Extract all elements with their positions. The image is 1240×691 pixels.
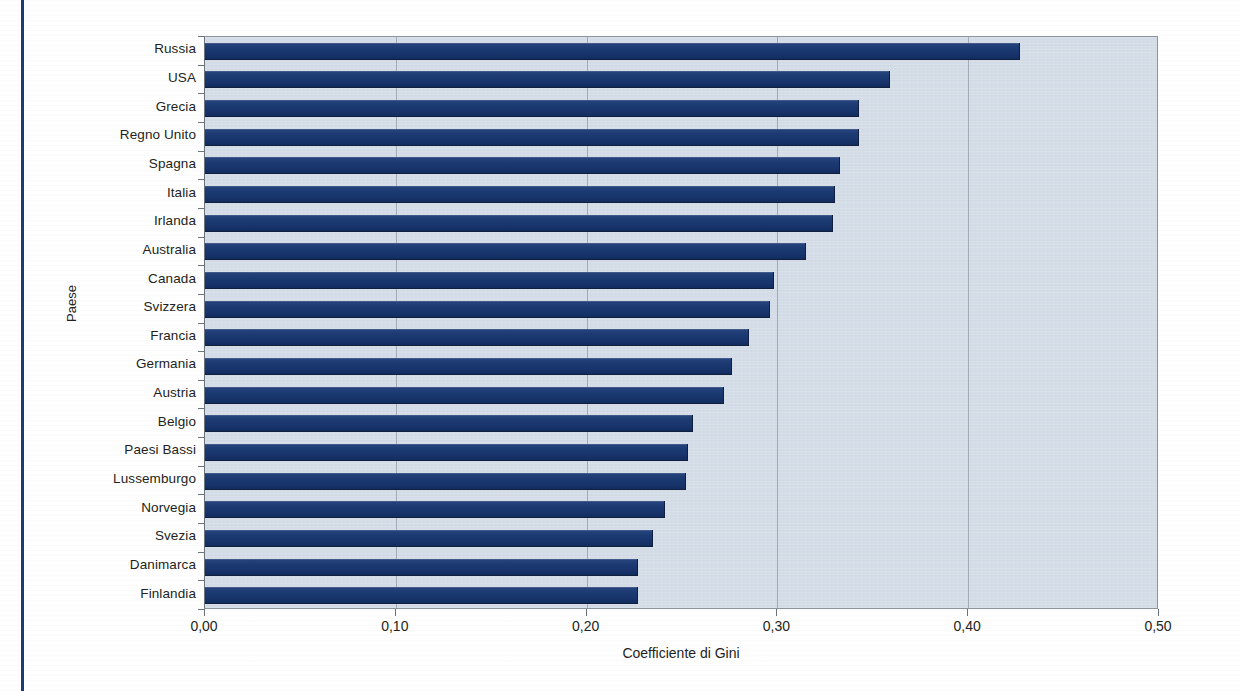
category-tick xyxy=(198,65,204,66)
gridline xyxy=(587,37,588,608)
bar-row xyxy=(205,358,1157,375)
category-tick xyxy=(198,265,204,266)
gridline xyxy=(777,37,778,608)
category-label: Irlanda xyxy=(0,213,196,228)
plot-background-texture xyxy=(205,37,1157,608)
value-tick xyxy=(395,609,396,616)
category-label: Russia xyxy=(0,41,196,56)
category-tick xyxy=(198,351,204,352)
category-tick xyxy=(198,552,204,553)
category-label: USA xyxy=(0,70,196,85)
category-label: Germania xyxy=(0,356,196,371)
value-tick-label: 0,30 xyxy=(763,618,790,634)
page-canvas: RussiaUSAGreciaRegno UnitoSpagnaItaliaIr… xyxy=(0,0,1240,691)
category-label: Belgio xyxy=(0,414,196,429)
bar-row xyxy=(205,157,1157,174)
bar xyxy=(205,501,665,518)
gini-bar-chart: RussiaUSAGreciaRegno UnitoSpagnaItaliaIr… xyxy=(0,0,1240,691)
category-tick xyxy=(198,122,204,123)
bar xyxy=(205,43,1020,60)
bar xyxy=(205,415,693,432)
bar xyxy=(205,301,770,318)
bar-row xyxy=(205,501,1157,518)
category-label: Italia xyxy=(0,185,196,200)
bar-row xyxy=(205,100,1157,117)
value-tick-label: 0,00 xyxy=(190,618,217,634)
bar xyxy=(205,530,653,547)
value-tick xyxy=(586,609,587,616)
y-axis-title: Paese xyxy=(64,285,79,322)
category-label: Svizzera xyxy=(0,299,196,314)
category-label: Francia xyxy=(0,328,196,343)
bar-row xyxy=(205,415,1157,432)
bar xyxy=(205,329,749,346)
category-tick xyxy=(198,466,204,467)
bar-row xyxy=(205,444,1157,461)
value-tick-label: 0,40 xyxy=(954,618,981,634)
bar xyxy=(205,157,840,174)
bar xyxy=(205,444,688,461)
category-tick xyxy=(198,380,204,381)
bar xyxy=(205,129,859,146)
value-tick-label: 0,50 xyxy=(1144,618,1171,634)
category-tick xyxy=(198,36,204,37)
category-label: Norvegia xyxy=(0,500,196,515)
bar xyxy=(205,71,890,88)
category-label: Svezia xyxy=(0,528,196,543)
bar-row xyxy=(205,559,1157,576)
value-tick xyxy=(1158,609,1159,616)
bar xyxy=(205,100,859,117)
category-label: Finlandia xyxy=(0,586,196,601)
value-tick-label: 0,20 xyxy=(572,618,599,634)
x-axis-title: Coefficiente di Gini xyxy=(622,645,739,661)
value-tick xyxy=(967,609,968,616)
category-tick xyxy=(198,580,204,581)
bar-row xyxy=(205,43,1157,60)
bar-row xyxy=(205,473,1157,490)
category-label: Grecia xyxy=(0,99,196,114)
bar xyxy=(205,272,774,289)
bar-row xyxy=(205,71,1157,88)
bar xyxy=(205,559,638,576)
category-label: Spagna xyxy=(0,156,196,171)
category-label: Lussemburgo xyxy=(0,471,196,486)
bar-row xyxy=(205,186,1157,203)
gridline xyxy=(968,37,969,608)
category-tick xyxy=(198,408,204,409)
category-label: Australia xyxy=(0,242,196,257)
category-tick xyxy=(198,523,204,524)
category-tick xyxy=(198,437,204,438)
bar-row xyxy=(205,301,1157,318)
bar xyxy=(205,587,638,604)
bar xyxy=(205,215,833,232)
value-tick-label: 0,10 xyxy=(381,618,408,634)
category-tick xyxy=(198,179,204,180)
category-label: Regno Unito xyxy=(0,127,196,142)
bar-row xyxy=(205,243,1157,260)
bar xyxy=(205,243,806,260)
category-tick xyxy=(198,494,204,495)
bar xyxy=(205,473,686,490)
bar-row xyxy=(205,215,1157,232)
value-tick xyxy=(204,609,205,616)
bar-row xyxy=(205,129,1157,146)
value-tick xyxy=(776,609,777,616)
plot-area xyxy=(204,36,1158,609)
bar-row xyxy=(205,329,1157,346)
bar-row xyxy=(205,272,1157,289)
gridline xyxy=(396,37,397,608)
category-tick xyxy=(198,93,204,94)
category-tick xyxy=(198,208,204,209)
bar-row xyxy=(205,387,1157,404)
bar xyxy=(205,186,835,203)
bar xyxy=(205,358,732,375)
category-tick xyxy=(198,294,204,295)
bar xyxy=(205,387,724,404)
category-label: Austria xyxy=(0,385,196,400)
category-label: Danimarca xyxy=(0,557,196,572)
bar-row xyxy=(205,587,1157,604)
category-tick xyxy=(198,151,204,152)
category-tick xyxy=(198,323,204,324)
category-label: Paesi Bassi xyxy=(0,442,196,457)
category-tick xyxy=(198,237,204,238)
